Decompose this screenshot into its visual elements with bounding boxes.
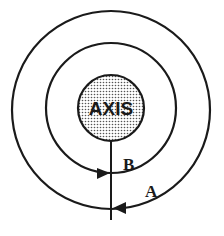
concentric-loops-diagram: AXIS B A <box>0 0 224 236</box>
axis-label: AXIS <box>89 98 133 119</box>
arrow-right-icon <box>97 168 110 179</box>
label-a: A <box>145 182 158 201</box>
arrow-left-icon <box>113 202 126 214</box>
label-b: B <box>123 155 134 174</box>
diagram-canvas: AXIS B A <box>0 0 224 236</box>
